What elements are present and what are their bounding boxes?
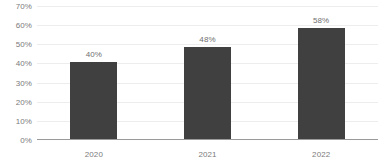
bar-2021[interactable]: 48% <box>184 47 231 139</box>
bar-slot: 40% <box>37 6 151 139</box>
y-axis-tick-label: 60% <box>16 21 32 30</box>
bar-2020[interactable]: 40% <box>70 62 117 139</box>
x-axis-category-label: 2021 <box>151 148 265 166</box>
x-axis-category-label: 2022 <box>264 148 378 166</box>
x-axis-category-label: 2020 <box>37 148 151 166</box>
bar-series: 40% 48% 58% <box>37 6 378 139</box>
y-axis-tick-label: 40% <box>16 59 32 68</box>
bar-slot: 58% <box>264 6 378 139</box>
y-axis-tick-label: 0% <box>20 136 32 145</box>
y-axis-tick-label: 20% <box>16 97 32 106</box>
y-axis-tick-label: 30% <box>16 78 32 87</box>
bar-slot: 48% <box>151 6 265 139</box>
bar-value-label: 58% <box>313 16 329 25</box>
y-axis: 70% 60% 50% 40% 30% 20% 10% 0% <box>0 0 36 146</box>
bar-chart: 70% 60% 50% 40% 30% 20% 10% 0% 40% 48% <box>0 0 385 167</box>
plot-area: 40% 48% 58% <box>37 6 378 140</box>
x-axis: 2020 2021 2022 <box>37 148 378 166</box>
bar-2022[interactable]: 58% <box>298 28 345 139</box>
x-axis-line <box>37 139 378 140</box>
y-axis-tick-label: 10% <box>16 116 32 125</box>
bar-value-label: 40% <box>86 50 102 59</box>
y-axis-tick-label: 50% <box>16 40 32 49</box>
bar-value-label: 48% <box>199 35 215 44</box>
y-axis-tick-label: 70% <box>16 2 32 11</box>
